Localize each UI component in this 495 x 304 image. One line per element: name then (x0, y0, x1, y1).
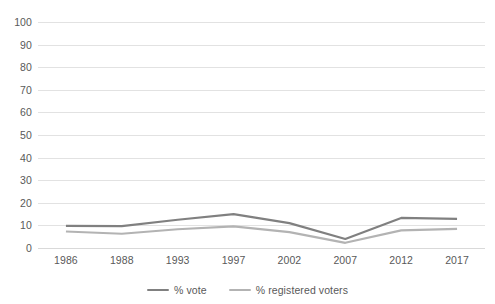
y-tick-label: 80 (0, 62, 32, 72)
x-tick-label: 1986 (36, 254, 96, 267)
legend-item[interactable]: % registered voters (229, 284, 348, 296)
series-line (66, 226, 457, 243)
chart-legend: % vote% registered voters (0, 281, 495, 299)
x-tick-label: 2012 (371, 254, 431, 267)
y-tick-label: 90 (0, 40, 32, 50)
y-tick-label: 20 (0, 198, 32, 208)
legend-label: % vote (174, 284, 207, 296)
series-layer (38, 22, 485, 248)
legend-swatch-icon (147, 289, 169, 291)
series-line (66, 214, 457, 239)
y-tick-label: 60 (0, 107, 32, 117)
y-tick-label: 70 (0, 85, 32, 95)
x-tick-label: 1993 (148, 254, 208, 267)
x-tick-label: 2017 (427, 254, 487, 267)
legend-item[interactable]: % vote (147, 284, 207, 296)
y-tick-label: 50 (0, 130, 32, 140)
y-tick-label: 30 (0, 175, 32, 185)
y-tick-label: 100 (0, 17, 32, 27)
x-tick-label: 1988 (92, 254, 152, 267)
y-tick-label: 40 (0, 153, 32, 163)
gridline-0 (38, 248, 485, 249)
line-chart: 0102030405060708090100 19861988199319972… (0, 0, 495, 304)
y-tick-label: 0 (0, 243, 32, 253)
legend-label: % registered voters (256, 284, 348, 296)
y-tick-label: 10 (0, 220, 32, 230)
y-axis: 0102030405060708090100 (0, 22, 32, 248)
x-axis: 19861988199319972002200720122017 (38, 254, 485, 270)
x-tick-label: 2007 (315, 254, 375, 267)
legend-swatch-icon (229, 289, 251, 291)
x-tick-label: 1997 (204, 254, 264, 267)
x-tick-label: 2002 (259, 254, 319, 267)
